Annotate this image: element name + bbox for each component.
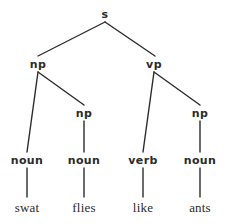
tree-node-noun-2: noun — [68, 155, 101, 166]
tree-leaf-ants: ants — [189, 201, 211, 214]
tree-node-vp-predicate: vp — [146, 59, 162, 70]
edge-np-to-noun1 — [27, 72, 38, 152]
parse-tree-figure: s np vp np np noun noun verb noun swat f… — [0, 0, 226, 223]
tree-node-verb: verb — [128, 155, 158, 166]
edge-s-to-vp — [105, 22, 155, 56]
tree-node-np-object-right: np — [192, 108, 209, 119]
edge-s-to-np — [38, 22, 105, 56]
tree-node-noun-1: noun — [11, 155, 44, 166]
tree-leaf-like: like — [133, 201, 153, 214]
tree-node-noun-3: noun — [184, 155, 217, 166]
tree-node-np-subject: np — [30, 59, 47, 70]
edge-np-to-np — [38, 72, 84, 105]
tree-leaf-flies: flies — [72, 201, 95, 214]
tree-leaf-swat: swat — [15, 201, 40, 214]
tree-node-np-object-left: np — [76, 108, 93, 119]
edge-vp-to-np — [154, 72, 200, 105]
tree-node-s: s — [102, 9, 109, 20]
edge-vp-to-verb — [143, 72, 154, 152]
